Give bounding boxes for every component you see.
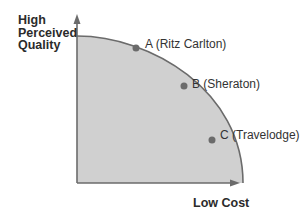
- y-axis-label-line: High: [18, 14, 77, 27]
- x-axis-label: Low Cost: [193, 196, 249, 210]
- point-b-label: B (Sheraton): [192, 77, 260, 91]
- point-c-label: C (Travelodge): [220, 128, 300, 142]
- point-c: [209, 137, 216, 144]
- point-b: [181, 83, 188, 90]
- frontier-area: [77, 36, 243, 183]
- y-axis-label: High Perceived Quality: [18, 14, 77, 52]
- point-a: [133, 45, 140, 52]
- point-a-label: A (Ritz Carlton): [145, 37, 226, 51]
- y-axis-label-line: Quality: [18, 39, 77, 52]
